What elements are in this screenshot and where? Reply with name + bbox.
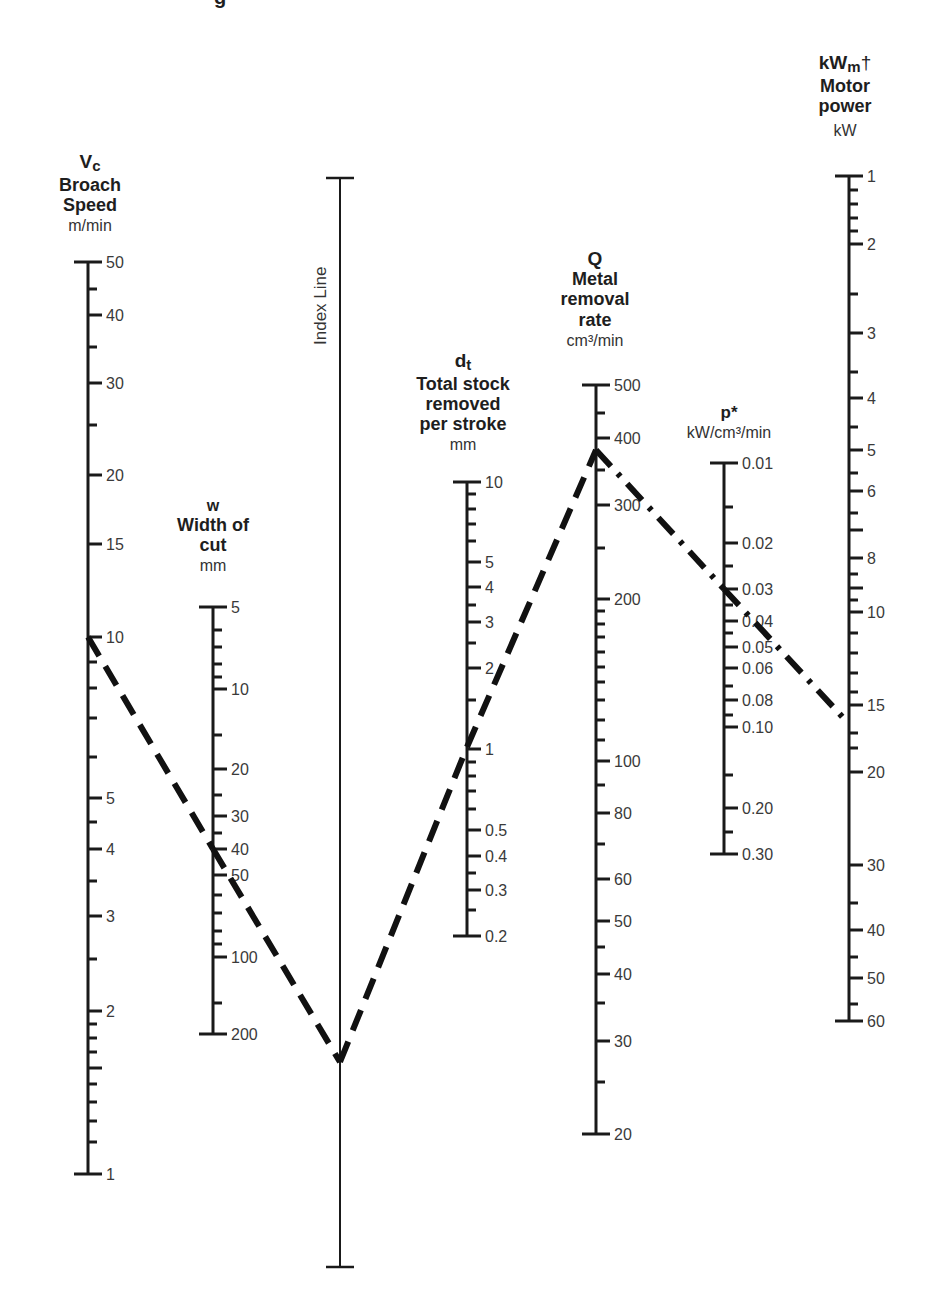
vc-tick-label: 40 (106, 307, 124, 324)
w-unit: mm (158, 557, 268, 575)
vc-name-line-2: Speed (40, 195, 140, 215)
dt-tick-label: 3 (485, 614, 494, 631)
vc-tick-label: 5 (106, 790, 115, 807)
kw-name-line-1: Motor (800, 76, 890, 96)
kw-tick-label: 1 (867, 168, 876, 185)
vc-tick-label: 50 (106, 254, 124, 271)
dt-name-line-2: removed (388, 394, 538, 414)
dt-tick-label: 4 (485, 579, 494, 596)
vc-tick-label: 1 (106, 1166, 115, 1183)
dt-tick-label: 0.5 (485, 822, 507, 839)
p-symbol: p* (664, 403, 794, 422)
dt-tick-label: 1 (485, 741, 494, 758)
w-tick-label: 5 (231, 599, 240, 616)
q-header: Q Metal removal rate cm³/min (535, 248, 655, 350)
dt-tick-label: 0.4 (485, 848, 507, 865)
q-tick-label: 40 (614, 966, 632, 983)
kw-tick-label: 8 (867, 550, 876, 567)
example-dash-segment (88, 637, 213, 849)
w-tick-label: 30 (231, 808, 249, 825)
p-tick-label: 0.01 (742, 455, 773, 472)
example-dash-segment (340, 747, 467, 1062)
example-dash-segment (467, 450, 596, 747)
kw-tick-label: 60 (867, 1013, 885, 1030)
p-tick-label: 0.30 (742, 846, 773, 863)
p-tick-label: 0.06 (742, 660, 773, 677)
dt-unit: mm (388, 436, 538, 454)
kw-tick-label: 2 (867, 236, 876, 253)
kw-tick-label: 10 (867, 604, 885, 621)
dt-name-line-3: per stroke (388, 414, 538, 434)
q-name-line-2: removal (535, 289, 655, 309)
kw-header: kWm† Motor power kW (800, 52, 890, 140)
kw-tick-label: 20 (867, 764, 885, 781)
q-tick-label: 20 (614, 1126, 632, 1143)
kw-tick-label: 30 (867, 857, 885, 874)
kw-tick-label: 50 (867, 970, 885, 987)
p-tick-label: 0.03 (742, 581, 773, 598)
kw-tick-label: 6 (867, 483, 876, 500)
vc-tick-label: 2 (106, 1003, 115, 1020)
axes-layer: 5040302015105432151020304050100200105432… (74, 168, 885, 1267)
q-tick-label: 400 (614, 430, 641, 447)
q-tick-label: 100 (614, 753, 641, 770)
index-line-label: Index Line (311, 267, 331, 345)
w-tick-label: 200 (231, 1026, 258, 1043)
vc-tick-label: 15 (106, 536, 124, 553)
kw-tick-label: 15 (867, 697, 885, 714)
vc-tick-label: 3 (106, 908, 115, 925)
dt-tick-label: 5 (485, 554, 494, 571)
p-unit: kW/cm³/min (664, 424, 794, 442)
vc-axis: 50403020151054321 (74, 254, 124, 1183)
vc-tick-label: 30 (106, 375, 124, 392)
w-symbol: w (158, 497, 268, 515)
p-tick-label: 0.20 (742, 800, 773, 817)
q-tick-label: 200 (614, 591, 641, 608)
dt-tick-label: 0.2 (485, 928, 507, 945)
q-tick-label: 30 (614, 1033, 632, 1050)
vc-tick-label: 20 (106, 467, 124, 484)
dt-header: dt Total stock removed per stroke mm (388, 350, 538, 454)
vc-symbol: Vc (40, 151, 140, 175)
kw-tick-label: 40 (867, 922, 885, 939)
kw-tick-label: 5 (867, 442, 876, 459)
dt-symbol: dt (388, 350, 538, 374)
dt-name-line-1: Total stock (388, 374, 538, 394)
vc-tick-label: 4 (106, 841, 115, 858)
dt-tick-label: 10 (485, 474, 503, 491)
w-header: w Width of cut mm (158, 497, 268, 575)
w-axis: 51020304050100200 (199, 599, 258, 1043)
w-name-line-1: Width of (158, 515, 268, 535)
kw-axis: 123456810152030405060 (835, 168, 885, 1030)
q-tick-label: 500 (614, 377, 641, 394)
title-fragment: g (200, 0, 240, 8)
w-tick-label: 20 (231, 761, 249, 778)
kw-name-line-2: power (800, 96, 890, 116)
q-tick-label: 300 (614, 497, 641, 514)
dt-tick-label: 0.3 (485, 882, 507, 899)
p-tick-label: 0.02 (742, 535, 773, 552)
q-unit: cm³/min (535, 332, 655, 350)
vc-unit: m/min (40, 217, 140, 235)
q-tick-label: 50 (614, 913, 632, 930)
kw-unit: kW (800, 122, 890, 140)
p-header: p* kW/cm³/min (664, 403, 794, 442)
q-tick-label: 80 (614, 805, 632, 822)
w-tick-label: 100 (231, 949, 258, 966)
p-axis: 0.010.020.030.040.050.060.080.100.200.30 (710, 455, 773, 863)
example-dash-segment (596, 450, 724, 589)
q-name-line-3: rate (535, 310, 655, 330)
kw-tick-label: 3 (867, 325, 876, 342)
w-tick-label: 40 (231, 841, 249, 858)
q-tick-label: 60 (614, 871, 632, 888)
vc-header: Vc Broach Speed m/min (40, 151, 140, 235)
p-tick-label: 0.10 (742, 719, 773, 736)
p-tick-label: 0.05 (742, 639, 773, 656)
kw-tick-label: 4 (867, 390, 876, 407)
p-tick-label: 0.08 (742, 692, 773, 709)
vc-tick-label: 10 (106, 629, 124, 646)
dt-tick-label: 2 (485, 660, 494, 677)
w-tick-label: 10 (231, 681, 249, 698)
vc-name-line-1: Broach (40, 175, 140, 195)
nomogram-svg: 5040302015105432151020304050100200105432… (0, 0, 952, 1309)
